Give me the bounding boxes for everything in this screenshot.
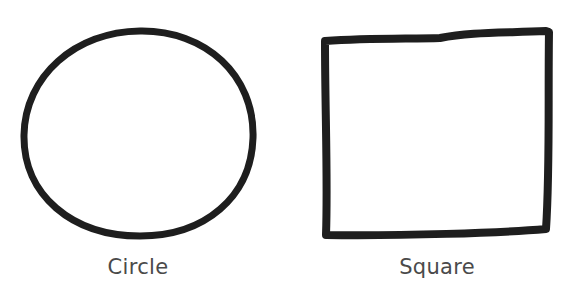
square-label: Square	[337, 255, 537, 279]
circle-shape	[24, 31, 253, 236]
circle-label: Circle	[38, 255, 238, 279]
shapes-canvas	[0, 0, 574, 298]
square-shape	[325, 31, 549, 235]
